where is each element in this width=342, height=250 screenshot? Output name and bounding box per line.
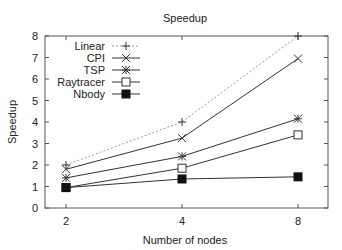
legend-label: CPI [87, 52, 105, 64]
y-axis-title: Speedup [6, 100, 18, 144]
legend-marker [122, 78, 130, 86]
raytracer-point [294, 131, 302, 139]
nbody-point [62, 183, 71, 192]
nbody-point [178, 174, 187, 183]
legend: LinearCPITSPRaytracerNbody [57, 40, 140, 100]
y-tick-label: 1 [32, 181, 38, 193]
y-tick-label: 4 [32, 116, 38, 128]
legend-label: Linear [74, 40, 105, 52]
legend-item-raytracer: Raytracer [57, 76, 140, 88]
y-tick-label: 6 [32, 73, 38, 85]
chart-title: Speedup [163, 12, 207, 24]
nbody-point [294, 172, 303, 181]
raytracer-point [178, 164, 186, 172]
y-tick-label: 7 [32, 52, 38, 64]
tsp-point [178, 152, 186, 160]
cpi-point [294, 55, 302, 63]
y-tick-label: 3 [32, 138, 38, 150]
y-tick-label: 8 [32, 30, 38, 42]
ticks: 012345678248 [32, 30, 328, 227]
x-tick-label: 4 [179, 215, 185, 227]
legend-item-tsp: TSP [84, 64, 140, 76]
linear-point [62, 161, 70, 169]
tsp-point [294, 115, 302, 123]
legend-marker [122, 66, 130, 74]
y-tick-label: 0 [32, 202, 38, 214]
linear-point [294, 32, 302, 40]
x-tick-label: 2 [63, 215, 69, 227]
y-tick-label: 5 [32, 95, 38, 107]
cpi-point [178, 134, 186, 142]
x-tick-label: 8 [295, 215, 301, 227]
legend-label: Raytracer [57, 76, 105, 88]
legend-item-nbody: Nbody [73, 88, 140, 100]
legend-marker [122, 42, 130, 50]
legend-label: Nbody [73, 88, 105, 100]
y-tick-label: 2 [32, 159, 38, 171]
legend-item-cpi: CPI [87, 52, 140, 64]
tsp-point [62, 174, 70, 182]
legend-label: TSP [84, 64, 105, 76]
x-axis-title: Number of nodes [143, 234, 228, 246]
legend-item-linear: Linear [74, 40, 140, 52]
speedup-chart: Speedup Speedup Number of nodes 01234567… [0, 0, 342, 250]
linear-point [178, 118, 186, 126]
legend-marker [122, 90, 131, 99]
